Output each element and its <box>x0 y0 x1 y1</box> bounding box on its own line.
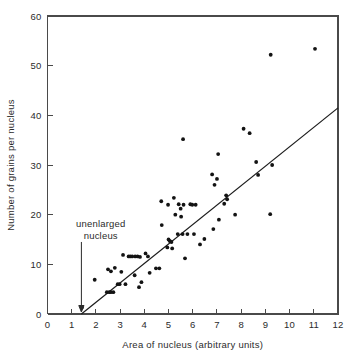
x-tick-label: 3 <box>117 319 122 330</box>
data-point <box>177 202 181 206</box>
x-tick-label: 7 <box>214 319 219 330</box>
x-tick-label: 2 <box>93 319 98 330</box>
data-point <box>157 266 161 270</box>
data-point <box>192 232 196 236</box>
data-point <box>222 202 226 206</box>
data-point <box>233 213 237 217</box>
data-point <box>268 212 272 216</box>
y-tick-label: 0 <box>36 309 41 320</box>
data-point <box>181 232 185 236</box>
annotation-text-line: unenlarged <box>76 218 126 229</box>
data-point <box>198 243 202 247</box>
y-tick-label: 50 <box>31 60 42 71</box>
x-tick-label: 9 <box>263 319 268 330</box>
data-point <box>248 131 252 135</box>
y-axis-title: Number of grains per nucleus <box>5 99 16 231</box>
data-point <box>121 253 125 257</box>
data-point <box>154 266 158 270</box>
y-axis-ticks: 0102030405060 <box>31 11 53 320</box>
data-point <box>181 137 185 141</box>
x-tick-label: 10 <box>284 319 295 330</box>
axis-frame <box>48 16 339 314</box>
y-tick-label: 40 <box>31 110 42 121</box>
data-point <box>179 215 183 219</box>
data-point <box>93 278 97 282</box>
data-point <box>109 269 113 273</box>
data-point <box>170 247 174 251</box>
y-tick-label: 30 <box>31 160 42 171</box>
data-point <box>172 196 176 200</box>
data-point <box>173 213 177 217</box>
data-point <box>190 203 194 207</box>
data-point <box>148 271 152 275</box>
y-tick-label: 10 <box>31 259 42 270</box>
x-tick-label: 5 <box>166 319 171 330</box>
data-point <box>254 160 258 164</box>
figure-container: 0123456789101112 0102030405060 unenlarge… <box>0 0 354 364</box>
data-point <box>140 280 144 284</box>
x-tick-label: 0 <box>45 319 50 330</box>
data-point <box>176 232 180 236</box>
data-point <box>269 53 273 57</box>
data-point <box>144 252 148 256</box>
x-tick-label: 11 <box>309 319 319 330</box>
data-point <box>242 127 246 131</box>
x-tick-label: 4 <box>142 319 147 330</box>
data-point <box>165 246 169 250</box>
data-point <box>159 199 163 203</box>
data-point <box>179 207 183 211</box>
x-axis-title: Area of nucleus (arbitrary units) <box>122 339 263 350</box>
annotation-text-line: nucleus <box>84 230 118 241</box>
data-point <box>270 163 274 167</box>
data-point <box>217 218 221 222</box>
data-point <box>146 254 150 258</box>
plot-border <box>48 16 339 314</box>
data-point <box>183 256 187 260</box>
data-point <box>256 173 260 177</box>
data-point <box>160 223 164 227</box>
scatter-plot: 0123456789101112 0102030405060 unenlarge… <box>0 0 354 364</box>
x-tick-label: 8 <box>238 319 243 330</box>
data-point <box>225 197 229 201</box>
data-point <box>113 266 117 270</box>
annotation-arrow-head <box>79 306 84 313</box>
axis-titles: Area of nucleus (arbitrary units)Number … <box>5 99 263 350</box>
x-tick-label: 1 <box>69 319 74 330</box>
data-point <box>210 173 214 177</box>
data-point <box>182 203 186 207</box>
y-tick-label: 20 <box>31 209 42 220</box>
data-point <box>166 203 170 207</box>
data-point <box>194 203 198 207</box>
x-axis-ticks: 0123456789101112 <box>45 309 344 330</box>
data-points <box>80 47 317 310</box>
data-point <box>137 285 141 289</box>
data-point <box>111 290 115 294</box>
data-point <box>133 273 137 277</box>
data-point <box>313 47 317 51</box>
data-point <box>202 237 206 241</box>
data-point <box>170 240 174 244</box>
data-point <box>213 183 217 187</box>
data-point <box>118 282 122 286</box>
data-point <box>138 255 142 259</box>
data-point <box>224 193 228 197</box>
x-tick-label: 12 <box>333 319 344 330</box>
x-tick-label: 6 <box>190 319 195 330</box>
data-point <box>215 177 219 181</box>
data-point <box>119 270 123 274</box>
data-point <box>124 282 128 286</box>
y-tick-label: 60 <box>31 11 42 22</box>
data-point <box>186 232 190 236</box>
data-point <box>216 152 220 156</box>
data-point <box>211 227 215 231</box>
